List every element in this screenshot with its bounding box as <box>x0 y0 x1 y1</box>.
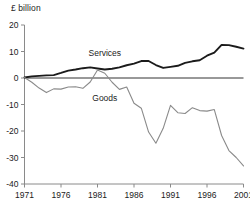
series-label-goods: Goods <box>92 93 117 103</box>
x-tick-label: 1986 <box>125 190 144 200</box>
series-label-services: Services <box>89 48 122 58</box>
y-tick-label: 0 <box>14 73 19 83</box>
x-tick-label: 1976 <box>52 190 71 200</box>
y-tick-label: 20 <box>9 20 19 30</box>
x-tick-label: 1981 <box>88 190 107 200</box>
series-lines <box>25 45 244 166</box>
x-axis: 1971197619811986199119962001 <box>15 184 250 200</box>
y-tick-label: -20 <box>6 126 19 136</box>
x-tick-label: 1971 <box>15 190 34 200</box>
x-tick-label: 1996 <box>198 190 217 200</box>
y-tick-label: -10 <box>6 100 19 110</box>
y-tick-label: -30 <box>6 153 19 163</box>
line-chart-plot: 20100-10-20-30-40 1971197619811986199119… <box>0 0 250 203</box>
y-axis: 20100-10-20-30-40 <box>6 20 24 189</box>
series-annotations: ServicesGoods <box>89 48 122 103</box>
x-tick-label: 2001 <box>234 190 250 200</box>
series-line-goods <box>25 70 244 166</box>
y-tick-label: -40 <box>6 179 19 189</box>
chart-figure: £ billion 20100-10-20-30-40 197119761981… <box>0 0 250 203</box>
y-tick-label: 10 <box>9 47 19 57</box>
x-tick-label: 1991 <box>161 190 180 200</box>
series-line-services <box>25 45 244 78</box>
